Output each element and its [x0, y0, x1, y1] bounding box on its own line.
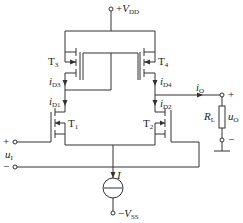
vss-label: −VSS [118, 208, 139, 221]
tail-current-label: I [117, 170, 121, 181]
arrow-id4 [153, 80, 158, 86]
t4-label: T4 [158, 56, 168, 69]
id1-label: iD1 [49, 96, 61, 109]
id4-label: iD4 [160, 76, 172, 89]
arrow-id1 [63, 100, 68, 106]
arrow-tail-current [111, 172, 116, 178]
t2-label: T2 [143, 118, 153, 131]
input-minus-label: − [3, 161, 9, 172]
t1-label: T1 [68, 118, 78, 131]
arrow-id3 [63, 80, 68, 86]
id2-label: iD2 [160, 98, 172, 111]
t3-label: T3 [48, 56, 58, 69]
uo-label: uO [228, 111, 239, 124]
id3-label: iD3 [49, 76, 61, 89]
output-plus-label: + [228, 89, 234, 100]
circuit-diagram: +VDD T3 T4 T1 T2 iD3 iD1 iD4 iD2 iO I + … [0, 0, 243, 223]
rl-label: RL [204, 111, 215, 124]
output-minus-label: − [228, 134, 234, 145]
vdd-label: +VDD [116, 3, 139, 16]
arrow-id2 [153, 100, 158, 106]
vdd-terminal [109, 7, 113, 11]
input-plus-label: + [3, 136, 9, 147]
io-label: iO [196, 82, 204, 95]
